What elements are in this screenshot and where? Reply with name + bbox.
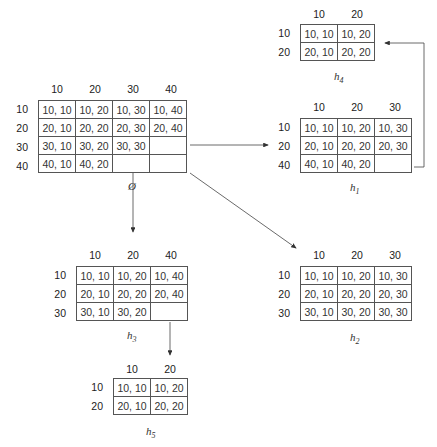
- table-row: 30, 1030, 20: [77, 303, 188, 321]
- table-h2: 10, 1010, 2010, 3020, 1020, 2020, 3030, …: [300, 266, 412, 321]
- column-header: 40: [152, 249, 190, 261]
- table-cell: 20, 40: [151, 285, 188, 303]
- column-header: 20: [338, 249, 376, 261]
- table-cell: 10, 30: [375, 267, 412, 285]
- table-cell: 20, 10: [39, 119, 76, 137]
- column-header: 40: [152, 83, 190, 95]
- table-row: 10, 1010, 20: [301, 25, 375, 43]
- table-cell: 20, 20: [114, 285, 151, 303]
- table-cell: 30, 20: [338, 303, 375, 321]
- table-label-h4: h4: [334, 70, 344, 85]
- row-header: 30: [268, 307, 290, 319]
- table-cell: 20, 40: [150, 119, 187, 137]
- row-header: 20: [6, 122, 28, 134]
- table-cell: 30, 20: [76, 137, 113, 155]
- row-header: 10: [268, 27, 290, 39]
- table-row: 10, 1010, 2010, 40: [77, 267, 188, 285]
- column-header: 20: [338, 101, 376, 113]
- row-header: 10: [44, 269, 66, 281]
- table-row: 10, 1010, 2010, 30: [301, 267, 412, 285]
- table-label-h3: h3: [127, 329, 137, 344]
- table-cell: 20, 10: [301, 285, 338, 303]
- row-header: 20: [268, 46, 290, 58]
- table-cell: [375, 155, 412, 173]
- table-cell: 20, 10: [301, 137, 338, 155]
- table-cell: 40, 10: [301, 155, 338, 173]
- table-cell: 20, 20: [338, 137, 375, 155]
- row-header: 30: [6, 141, 28, 153]
- table-cell: 20, 10: [114, 397, 151, 415]
- table-row: 40, 1040, 20: [39, 155, 187, 173]
- table-row: 40, 1040, 20: [301, 155, 412, 173]
- table-row: 30, 1030, 2030, 30: [301, 303, 412, 321]
- table-cell: 20, 30: [375, 285, 412, 303]
- table-cell: 10, 20: [76, 101, 113, 119]
- table-row: 20, 1020, 2020, 30: [301, 137, 412, 155]
- table-cell: 40, 20: [76, 155, 113, 173]
- label-text: Ø: [128, 180, 136, 192]
- table-row: 10, 1010, 2010, 3010, 40: [39, 101, 187, 119]
- label-subscript: 4: [340, 76, 344, 85]
- table-cell: 10, 10: [114, 379, 151, 397]
- table-cell: 20, 30: [113, 119, 150, 137]
- row-header: 20: [81, 400, 103, 412]
- table-label-empty: Ø: [128, 180, 136, 192]
- column-header: 10: [300, 249, 338, 261]
- column-header: 20: [338, 8, 376, 20]
- table-cell: 10, 40: [150, 101, 187, 119]
- table-cell: 10, 20: [338, 267, 375, 285]
- table-cell: 30, 30: [113, 137, 150, 155]
- table-cell: 20, 10: [77, 285, 114, 303]
- row-header: 20: [44, 288, 66, 300]
- table-h4: 10, 1010, 2020, 1020, 20: [300, 24, 375, 61]
- table-cell: 20, 10: [301, 43, 338, 61]
- table-row: 20, 1020, 2020, 40: [77, 285, 188, 303]
- table-row: 10, 1010, 2010, 30: [301, 119, 412, 137]
- column-header: 20: [114, 249, 152, 261]
- row-header: 30: [44, 307, 66, 319]
- table-cell: 40, 20: [338, 155, 375, 173]
- row-header: 20: [268, 288, 290, 300]
- column-header: 10: [76, 249, 114, 261]
- table-cell: [150, 155, 187, 173]
- column-header: 30: [114, 83, 152, 95]
- row-header: 10: [6, 103, 28, 115]
- table-cell: 10, 30: [375, 119, 412, 137]
- table-cell: 10, 10: [301, 267, 338, 285]
- table-row: 20, 1020, 20: [114, 397, 188, 415]
- row-header: 40: [268, 159, 290, 171]
- table-h1: 10, 1010, 2010, 3020, 1020, 2020, 3040, …: [300, 118, 412, 173]
- column-header: 10: [113, 363, 151, 375]
- column-header: 20: [151, 363, 189, 375]
- label-subscript: 1: [356, 187, 360, 196]
- table-h3: 10, 1010, 2010, 4020, 1020, 2020, 4030, …: [76, 266, 188, 321]
- table-cell: [113, 155, 150, 173]
- table-cell: 10, 10: [39, 101, 76, 119]
- table-cell: 10, 20: [114, 267, 151, 285]
- table-cell: 20, 20: [151, 397, 188, 415]
- table-cell: [151, 303, 188, 321]
- table-label-h5: h5: [146, 425, 156, 440]
- label-subscript: 2: [356, 337, 360, 346]
- table-row: 20, 1020, 2020, 3020, 40: [39, 119, 187, 137]
- table-h5: 10, 1010, 2020, 1020, 20: [113, 378, 188, 415]
- row-header: 10: [268, 269, 290, 281]
- table-cell: 30, 10: [77, 303, 114, 321]
- table-cell: 10, 10: [301, 25, 338, 43]
- edge-empty-to-h2: [190, 173, 296, 248]
- label-subscript: 3: [133, 335, 137, 344]
- column-header: 10: [300, 8, 338, 20]
- table-empty: 10, 1010, 2010, 3010, 4020, 1020, 2020, …: [38, 100, 187, 173]
- table-row: 20, 1020, 2020, 30: [301, 285, 412, 303]
- table-cell: 10, 20: [151, 379, 188, 397]
- row-header: 20: [268, 140, 290, 152]
- table-cell: [150, 137, 187, 155]
- table-cell: 20, 20: [76, 119, 113, 137]
- row-header: 10: [268, 121, 290, 133]
- table-cell: 10, 40: [151, 267, 188, 285]
- table-cell: 10, 10: [77, 267, 114, 285]
- table-row: 30, 1030, 2030, 30: [39, 137, 187, 155]
- table-cell: 10, 10: [301, 119, 338, 137]
- table-cell: 10, 20: [338, 25, 375, 43]
- table-row: 20, 1020, 20: [301, 43, 375, 61]
